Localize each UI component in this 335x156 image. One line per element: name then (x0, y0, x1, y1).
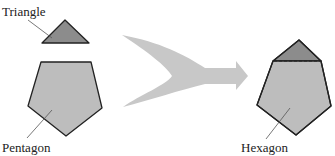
triangle-leader-line (28, 20, 52, 38)
hexagon-body (257, 61, 331, 135)
hexagon-label: Hexagon (241, 140, 288, 155)
triangle-label: Triangle (2, 4, 46, 19)
diagram-canvas: Triangle Pentagon Hexagon (0, 0, 335, 156)
pentagon-label: Pentagon (2, 140, 51, 155)
triangle-shape (42, 20, 89, 43)
hexagon-top-triangle (273, 40, 321, 61)
merge-arrow (122, 35, 248, 107)
